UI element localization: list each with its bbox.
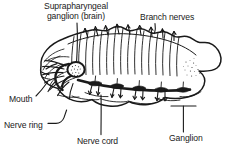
label-branch-nerves: Branch nerves xyxy=(140,12,194,22)
leader-mouth xyxy=(36,82,48,96)
label-nerve-cord: Nerve cord xyxy=(77,136,118,146)
label-mouth: Mouth xyxy=(9,94,32,104)
label-suprapharyngeal-ganglion: Suprapharyngeal ganglion (brain) xyxy=(26,1,126,21)
label-brain-line2: ganglion (brain) xyxy=(47,11,105,21)
label-ganglion: Ganglion xyxy=(169,133,203,143)
leader-nerve-ring xyxy=(48,110,67,123)
leader-branch-nerves xyxy=(154,24,155,34)
figure-root: Suprapharyngeal ganglion (brain) Branch … xyxy=(0,0,226,150)
label-brain-line1: Suprapharyngeal xyxy=(44,1,108,11)
label-nerve-ring: Nerve ring xyxy=(4,120,43,130)
